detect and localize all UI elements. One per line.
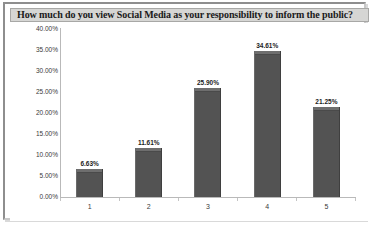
x-tick-label: 2 xyxy=(119,202,178,212)
x-tick-label: 1 xyxy=(60,202,119,212)
y-tick-label: 0.00% xyxy=(18,193,58,200)
x-axis-line xyxy=(60,197,356,198)
plot-area: 6.63% 11.61% 25.90% 34.61% 21.25% xyxy=(60,28,356,197)
y-axis: 40.00% 35.00% 30.00% 25.00% 20.00% 15.00… xyxy=(10,23,58,221)
x-tick-mark xyxy=(237,198,238,201)
chart-title-bar: How much do you view Social Media as you… xyxy=(10,8,369,22)
bar[interactable] xyxy=(194,88,221,197)
y-tick-label: 35.00% xyxy=(18,46,58,53)
x-tick-mark xyxy=(60,198,61,201)
bar-group: 6.63% xyxy=(60,28,119,197)
plot-wrapper: 40.00% 35.00% 30.00% 25.00% 20.00% 15.00… xyxy=(10,23,369,221)
bar-group: 34.61% xyxy=(238,28,297,197)
bar-highlight xyxy=(195,88,220,92)
x-tick-label: 4 xyxy=(238,202,297,212)
y-tick-label: 30.00% xyxy=(18,67,58,74)
bar-highlight xyxy=(136,148,161,152)
y-tick-label: 40.00% xyxy=(18,25,58,32)
bar[interactable] xyxy=(313,107,340,197)
bar[interactable] xyxy=(76,169,103,197)
x-tick-mark xyxy=(119,198,120,201)
bar[interactable] xyxy=(135,148,162,197)
bar-highlight xyxy=(314,107,339,111)
bar-highlight xyxy=(255,51,280,55)
bar-group: 25.90% xyxy=(178,28,237,197)
bar-value-label: 21.25% xyxy=(297,98,356,106)
x-tick-mark xyxy=(296,198,297,201)
bar-value-label: 11.61% xyxy=(119,139,178,147)
bar[interactable] xyxy=(254,51,281,197)
y-tick-label: 15.00% xyxy=(18,130,58,137)
y-tick-label: 25.00% xyxy=(18,88,58,95)
x-axis: 1 2 3 4 5 xyxy=(60,202,356,218)
chart-title: How much do you view Social Media as you… xyxy=(11,10,353,20)
y-tick-label: 5.00% xyxy=(18,172,58,179)
bar-value-label: 6.63% xyxy=(60,160,119,168)
y-tick-label: 10.00% xyxy=(18,151,58,158)
bar-value-label: 34.61% xyxy=(238,42,297,50)
bar-group: 21.25% xyxy=(297,28,356,197)
x-tick-label: 3 xyxy=(178,202,237,212)
x-tick-mark xyxy=(178,198,179,201)
bar-highlight xyxy=(77,169,102,173)
y-tick-label: 20.00% xyxy=(18,109,58,116)
x-tick-mark xyxy=(355,198,356,201)
x-tick-label: 5 xyxy=(297,202,356,212)
bar-value-label: 25.90% xyxy=(178,79,237,87)
bar-group: 11.61% xyxy=(119,28,178,197)
chart-container: How much do you view Social Media as you… xyxy=(3,2,366,220)
